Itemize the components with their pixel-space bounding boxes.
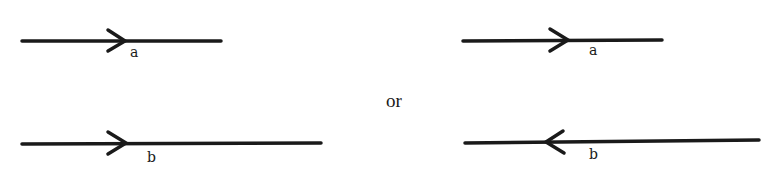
- right-vector-a-line: [463, 40, 662, 41]
- right-vector-a-label: a: [589, 43, 597, 57]
- left-vector-a-label: a: [130, 45, 138, 59]
- left-vector-b-line: [22, 143, 321, 144]
- separator-or-label: or: [386, 91, 402, 110]
- right-vector-b-label: b: [589, 147, 598, 161]
- left-vector-b-label: b: [147, 150, 156, 164]
- right-vector-b-line: [465, 140, 759, 143]
